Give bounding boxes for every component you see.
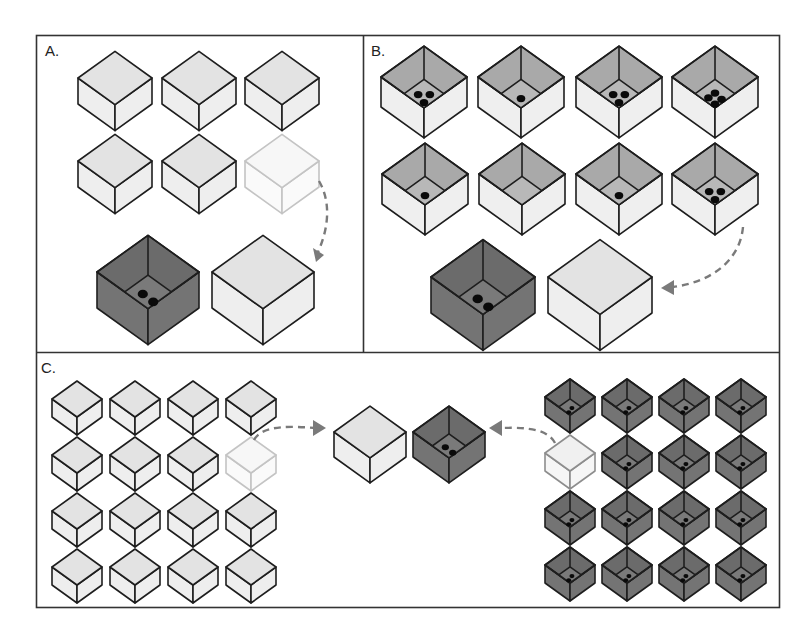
box-closed — [78, 134, 152, 213]
box-faded — [245, 134, 319, 213]
box-closed — [110, 549, 160, 603]
panel-a — [78, 51, 327, 344]
dot-icon — [717, 96, 726, 103]
box-dark — [602, 547, 652, 601]
box-dark — [716, 491, 766, 545]
box-closed — [78, 51, 152, 130]
dot-icon — [626, 462, 631, 466]
panel-c-label: C. — [41, 359, 56, 376]
box-dark — [659, 435, 709, 489]
dot-icon — [420, 99, 429, 106]
dot-icon — [569, 406, 574, 410]
dot-icon — [737, 578, 742, 582]
box-closed — [162, 134, 236, 213]
dot-icon — [680, 522, 685, 526]
dot-icon — [683, 518, 688, 522]
box-dark — [716, 435, 766, 489]
box-dark — [413, 406, 485, 483]
dot-icon — [683, 406, 688, 410]
dashed-arrow-icon — [489, 420, 555, 443]
dot-icon — [705, 188, 714, 195]
dot-icon — [626, 518, 631, 522]
dot-icon — [472, 295, 482, 304]
dot-icon — [704, 94, 713, 101]
box-closed — [226, 549, 276, 603]
dot-icon — [569, 574, 574, 578]
dot-icon — [626, 574, 631, 578]
box-closed — [52, 493, 102, 547]
dot-icon — [623, 410, 628, 414]
dot-icon — [711, 100, 720, 107]
box-dark — [716, 547, 766, 601]
box-dark — [545, 491, 595, 545]
box-closed — [168, 381, 218, 435]
box-dark — [602, 379, 652, 433]
box-open — [478, 46, 564, 138]
dot-icon — [615, 192, 624, 199]
dot-icon — [680, 578, 685, 582]
box-dark — [659, 379, 709, 433]
box-closed — [52, 381, 102, 435]
dot-icon — [623, 578, 628, 582]
dot-icon — [566, 578, 571, 582]
dot-icon — [711, 196, 720, 203]
dot-icon — [426, 91, 435, 98]
box-dark — [602, 491, 652, 545]
box-dark — [659, 547, 709, 601]
dot-icon — [740, 462, 745, 466]
box-closed — [110, 437, 160, 491]
dashed-arrow-icon — [661, 227, 743, 295]
panel-b-label: B. — [371, 42, 385, 59]
box-open — [381, 46, 467, 138]
box-open — [672, 46, 758, 138]
dot-icon — [717, 188, 726, 195]
box-faded — [226, 437, 276, 491]
box-dark — [602, 435, 652, 489]
dot-icon — [569, 518, 574, 522]
dot-icon — [517, 95, 526, 102]
box-closed — [168, 437, 218, 491]
dot-icon — [442, 444, 449, 450]
panel-a-label: A. — [45, 42, 59, 59]
box-open — [479, 143, 565, 235]
box-dark — [97, 235, 199, 344]
box-closed — [52, 549, 102, 603]
dot-icon — [566, 410, 571, 414]
box-closed — [212, 235, 314, 344]
dot-icon — [566, 522, 571, 526]
dot-icon — [626, 406, 631, 410]
dot-icon — [483, 302, 493, 311]
dot-icon — [621, 91, 630, 98]
dot-icon — [680, 410, 685, 414]
dot-icon — [609, 91, 618, 98]
box-open — [382, 143, 468, 235]
box-open — [576, 143, 662, 235]
box-closed — [226, 381, 276, 435]
dot-icon — [737, 522, 742, 526]
box-closed — [110, 493, 160, 547]
box-closed — [548, 240, 652, 351]
dot-icon — [740, 574, 745, 578]
dot-icon — [449, 450, 456, 456]
box-dark — [545, 379, 595, 433]
box-closed — [162, 51, 236, 130]
box-dark — [716, 379, 766, 433]
box-closed — [226, 493, 276, 547]
dot-icon — [623, 466, 628, 470]
panel-c — [52, 379, 766, 603]
dot-icon — [623, 522, 628, 526]
dot-icon — [138, 290, 148, 299]
dot-icon — [711, 89, 720, 96]
box-closed — [168, 493, 218, 547]
dot-icon — [740, 406, 745, 410]
dot-icon — [683, 462, 688, 466]
box-closed — [545, 435, 595, 489]
box-closed — [52, 437, 102, 491]
box-dark — [545, 547, 595, 601]
box-open — [672, 143, 758, 235]
box-closed — [110, 381, 160, 435]
dot-icon — [414, 91, 423, 98]
box-closed — [168, 549, 218, 603]
box-dark — [431, 240, 535, 351]
box-dark — [659, 491, 709, 545]
